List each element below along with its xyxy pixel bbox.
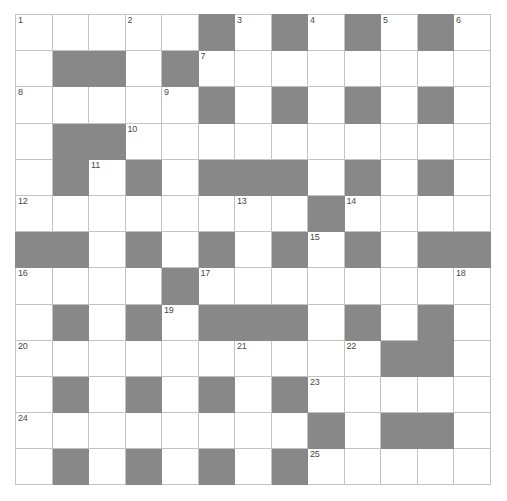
letter-cell[interactable]: [454, 304, 491, 340]
letter-cell[interactable]: [271, 123, 308, 159]
letter-cell[interactable]: [344, 376, 381, 412]
letter-cell[interactable]: [454, 51, 491, 87]
letter-cell[interactable]: [162, 159, 199, 195]
letter-cell[interactable]: [162, 413, 199, 449]
letter-cell[interactable]: 10: [125, 123, 162, 159]
letter-cell[interactable]: [16, 449, 53, 485]
letter-cell[interactable]: [344, 268, 381, 304]
letter-cell[interactable]: [454, 449, 491, 485]
letter-cell[interactable]: [454, 159, 491, 195]
letter-cell[interactable]: [417, 195, 454, 231]
letter-cell[interactable]: [89, 340, 126, 376]
letter-cell[interactable]: [89, 232, 126, 268]
letter-cell[interactable]: [454, 340, 491, 376]
letter-cell[interactable]: [16, 304, 53, 340]
letter-cell[interactable]: [344, 51, 381, 87]
letter-cell[interactable]: 23: [308, 376, 345, 412]
letter-cell[interactable]: [89, 413, 126, 449]
letter-cell[interactable]: 25: [308, 449, 345, 485]
letter-cell[interactable]: [308, 123, 345, 159]
letter-cell[interactable]: [271, 340, 308, 376]
letter-cell[interactable]: 17: [198, 268, 235, 304]
letter-cell[interactable]: 2: [125, 15, 162, 51]
letter-cell[interactable]: 8: [16, 87, 53, 123]
letter-cell[interactable]: 3: [235, 15, 272, 51]
letter-cell[interactable]: [417, 268, 454, 304]
letter-cell[interactable]: [162, 232, 199, 268]
letter-cell[interactable]: [381, 376, 418, 412]
letter-cell[interactable]: 9: [162, 87, 199, 123]
letter-cell[interactable]: [52, 15, 89, 51]
letter-cell[interactable]: [125, 87, 162, 123]
letter-cell[interactable]: [235, 87, 272, 123]
letter-cell[interactable]: [89, 376, 126, 412]
letter-cell[interactable]: [454, 87, 491, 123]
letter-cell[interactable]: [308, 159, 345, 195]
letter-cell[interactable]: [308, 87, 345, 123]
letter-cell[interactable]: 5: [381, 15, 418, 51]
letter-cell[interactable]: [381, 195, 418, 231]
letter-cell[interactable]: [381, 87, 418, 123]
letter-cell[interactable]: [162, 376, 199, 412]
letter-cell[interactable]: [89, 304, 126, 340]
letter-cell[interactable]: 4: [308, 15, 345, 51]
letter-cell[interactable]: [198, 123, 235, 159]
letter-cell[interactable]: [344, 123, 381, 159]
letter-cell[interactable]: [454, 195, 491, 231]
letter-cell[interactable]: [125, 195, 162, 231]
letter-cell[interactable]: [235, 449, 272, 485]
letter-cell[interactable]: [308, 340, 345, 376]
letter-cell[interactable]: [417, 51, 454, 87]
letter-cell[interactable]: [162, 340, 199, 376]
letter-cell[interactable]: [381, 232, 418, 268]
letter-cell[interactable]: 6: [454, 15, 491, 51]
letter-cell[interactable]: 1: [16, 15, 53, 51]
letter-cell[interactable]: [125, 413, 162, 449]
letter-cell[interactable]: [454, 376, 491, 412]
letter-cell[interactable]: [308, 268, 345, 304]
letter-cell[interactable]: 21: [235, 340, 272, 376]
letter-cell[interactable]: [381, 123, 418, 159]
letter-cell[interactable]: [344, 413, 381, 449]
letter-cell[interactable]: [235, 232, 272, 268]
letter-cell[interactable]: 11: [89, 159, 126, 195]
letter-cell[interactable]: [308, 51, 345, 87]
letter-cell[interactable]: 24: [16, 413, 53, 449]
letter-cell[interactable]: 19: [162, 304, 199, 340]
letter-cell[interactable]: [235, 268, 272, 304]
letter-cell[interactable]: [271, 195, 308, 231]
letter-cell[interactable]: [162, 195, 199, 231]
letter-cell[interactable]: [271, 413, 308, 449]
letter-cell[interactable]: [16, 123, 53, 159]
letter-cell[interactable]: [381, 304, 418, 340]
letter-cell[interactable]: [162, 123, 199, 159]
letter-cell[interactable]: [417, 376, 454, 412]
letter-cell[interactable]: [235, 51, 272, 87]
letter-cell[interactable]: [89, 268, 126, 304]
letter-cell[interactable]: [198, 340, 235, 376]
letter-cell[interactable]: [89, 87, 126, 123]
letter-cell[interactable]: [162, 449, 199, 485]
letter-cell[interactable]: [52, 413, 89, 449]
letter-cell[interactable]: [89, 195, 126, 231]
letter-cell[interactable]: 12: [16, 195, 53, 231]
letter-cell[interactable]: [271, 51, 308, 87]
letter-cell[interactable]: 16: [16, 268, 53, 304]
letter-cell[interactable]: [52, 340, 89, 376]
letter-cell[interactable]: [16, 159, 53, 195]
letter-cell[interactable]: [235, 123, 272, 159]
letter-cell[interactable]: 15: [308, 232, 345, 268]
letter-cell[interactable]: [381, 51, 418, 87]
letter-cell[interactable]: 13: [235, 195, 272, 231]
letter-cell[interactable]: [16, 51, 53, 87]
letter-cell[interactable]: [235, 413, 272, 449]
letter-cell[interactable]: [308, 304, 345, 340]
letter-cell[interactable]: [344, 449, 381, 485]
letter-cell[interactable]: [198, 195, 235, 231]
letter-cell[interactable]: [271, 268, 308, 304]
letter-cell[interactable]: 14: [344, 195, 381, 231]
letter-cell[interactable]: [417, 449, 454, 485]
letter-cell[interactable]: [235, 376, 272, 412]
letter-cell[interactable]: 7: [198, 51, 235, 87]
letter-cell[interactable]: 20: [16, 340, 53, 376]
